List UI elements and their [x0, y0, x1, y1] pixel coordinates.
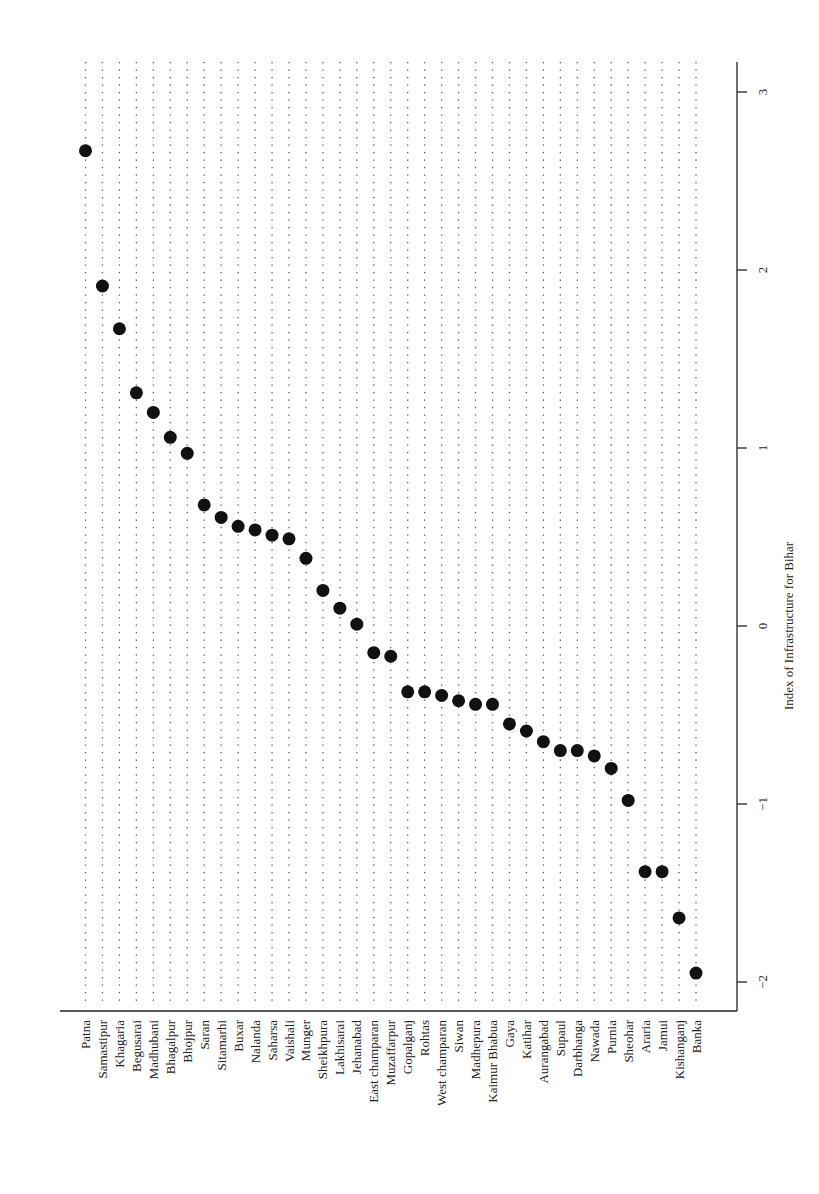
category-label: Patna [78, 1020, 93, 1049]
data-point [79, 144, 92, 157]
category-label: Vaishali [282, 1020, 297, 1062]
category-label: Supaul [553, 1020, 568, 1057]
data-point [350, 618, 363, 631]
category-label: Araria [638, 1020, 653, 1053]
category-label: Sitamarhi [214, 1020, 229, 1071]
category-label: Bhagalpur [163, 1019, 178, 1074]
category-label: West champaran [434, 1020, 449, 1106]
category-label: Sheikhpura [315, 1020, 330, 1079]
data-point [418, 685, 431, 698]
category-label: Madhepura [468, 1020, 483, 1079]
category-label: Siwan [451, 1020, 466, 1053]
data-point [486, 698, 499, 711]
data-point [639, 865, 652, 878]
data-points [79, 144, 703, 979]
data-point [384, 650, 397, 663]
category-label: Muzaffarpur [383, 1019, 398, 1085]
data-point [656, 865, 669, 878]
data-point [113, 322, 126, 335]
data-point [401, 685, 414, 698]
tick-label: 2 [755, 267, 770, 274]
category-label: East champaran [366, 1020, 381, 1103]
data-point [469, 698, 482, 711]
data-point [571, 744, 584, 757]
category-label: Kishanganj [672, 1020, 687, 1079]
category-label: Madhubani [146, 1020, 161, 1080]
data-point [181, 447, 194, 460]
category-label: Bhojpur [180, 1019, 195, 1062]
data-point [299, 552, 312, 565]
data-point [232, 520, 245, 533]
category-label: Sheohar [621, 1019, 636, 1062]
data-point [266, 529, 279, 542]
data-point [520, 725, 533, 738]
data-point [605, 762, 618, 775]
dot-plot-chart: −2−10123 PatnaSamastipurKhagariaBegusara… [0, 0, 819, 1194]
category-label: Rohtas [417, 1020, 432, 1056]
category-label: Jehanabad [349, 1020, 364, 1075]
data-point [503, 717, 516, 730]
value-axis-title: Index of Infrastructure for Bihar [781, 541, 796, 710]
category-label: Begusarai [129, 1020, 144, 1072]
category-label: Buxar [231, 1019, 246, 1051]
category-label: Saran [197, 1020, 212, 1050]
data-point [452, 694, 465, 707]
value-axis-ticks: −2−10123 [737, 89, 770, 989]
category-label: Munger [298, 1019, 313, 1061]
tick-label: −1 [755, 797, 770, 811]
category-label: Gaya [502, 1020, 517, 1048]
category-label: Katihar [519, 1019, 534, 1059]
data-point [96, 280, 109, 293]
category-label: Aurangabad [536, 1020, 551, 1084]
data-point [130, 386, 143, 399]
data-point [673, 911, 686, 924]
tick-label: 3 [755, 89, 770, 96]
data-point [164, 431, 177, 444]
data-point [537, 735, 550, 748]
tick-label: −2 [755, 975, 770, 989]
data-point [690, 967, 703, 980]
category-label: Khagaria [112, 1020, 127, 1068]
category-label: Jamui [655, 1020, 670, 1051]
data-point [147, 406, 160, 419]
category-labels: PatnaSamastipurKhagariaBegusaraiMadhuban… [78, 1019, 704, 1106]
dotted-gridlines [86, 62, 697, 1006]
data-point [333, 602, 346, 615]
category-label: Lakhisarai [332, 1020, 347, 1075]
data-point [554, 744, 567, 757]
category-label: Kaimur Bhabua [485, 1020, 500, 1103]
data-point [215, 511, 228, 524]
data-point [283, 532, 296, 545]
data-point [316, 584, 329, 597]
category-label: Samastipur [95, 1019, 110, 1078]
category-label: Saharsa [265, 1020, 280, 1061]
category-label: Nalanda [248, 1020, 263, 1064]
category-label: Darbhanga [570, 1020, 585, 1077]
tick-label: 1 [755, 445, 770, 452]
category-label: Gopalganj [400, 1020, 415, 1074]
category-label: Nawada [587, 1020, 602, 1063]
data-point [198, 498, 211, 511]
data-point [588, 749, 601, 762]
category-label: Banka [689, 1020, 704, 1053]
data-point [435, 689, 448, 702]
category-label: Purnia [604, 1020, 619, 1054]
data-point [367, 646, 380, 659]
data-point [622, 794, 635, 807]
tick-label: 0 [755, 623, 770, 630]
data-point [249, 523, 262, 536]
axis-frame [60, 62, 737, 1011]
